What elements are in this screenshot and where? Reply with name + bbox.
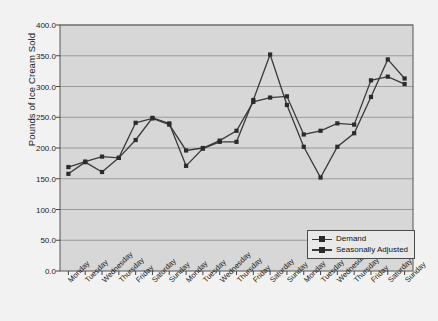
data-point bbox=[100, 170, 104, 174]
data-point bbox=[201, 146, 205, 150]
data-point bbox=[100, 155, 104, 159]
data-point bbox=[318, 175, 322, 179]
chart-legend: Demand Seasonally Adjusted bbox=[307, 230, 415, 259]
data-point bbox=[251, 100, 255, 104]
data-point bbox=[134, 138, 138, 142]
data-point bbox=[386, 57, 390, 61]
data-point bbox=[285, 103, 289, 107]
data-point bbox=[234, 129, 238, 133]
data-point bbox=[302, 145, 306, 149]
legend-entry-demand: Demand bbox=[312, 234, 408, 245]
data-point bbox=[369, 78, 373, 82]
line-marker-icon bbox=[312, 245, 332, 254]
data-point bbox=[167, 123, 171, 127]
data-point bbox=[150, 116, 154, 120]
ice-cream-demand-chart: Pounds of Ice Cream Sold 0.050.0100.0150… bbox=[0, 0, 438, 321]
data-point bbox=[318, 129, 322, 133]
data-point bbox=[285, 94, 289, 98]
data-point bbox=[352, 123, 356, 127]
data-point bbox=[117, 156, 121, 160]
line-marker-icon bbox=[312, 235, 332, 244]
data-point bbox=[234, 140, 238, 144]
data-point bbox=[402, 82, 406, 86]
data-point bbox=[352, 131, 356, 135]
data-point bbox=[134, 121, 138, 125]
data-point bbox=[66, 165, 70, 169]
data-point bbox=[83, 159, 87, 163]
data-point bbox=[386, 75, 390, 79]
data-point bbox=[218, 139, 222, 143]
data-point bbox=[66, 172, 70, 176]
legend-label: Demand bbox=[336, 234, 366, 245]
data-point bbox=[268, 52, 272, 56]
data-point bbox=[268, 95, 272, 99]
plot-area bbox=[0, 0, 438, 321]
data-point bbox=[369, 95, 373, 99]
data-point bbox=[335, 145, 339, 149]
data-point bbox=[402, 76, 406, 80]
data-point bbox=[184, 164, 188, 168]
data-point bbox=[184, 148, 188, 152]
data-point bbox=[302, 132, 306, 136]
legend-entry-seasonally-adjusted: Seasonally Adjusted bbox=[312, 245, 408, 256]
legend-label: Seasonally Adjusted bbox=[336, 245, 408, 256]
data-point bbox=[335, 121, 339, 125]
